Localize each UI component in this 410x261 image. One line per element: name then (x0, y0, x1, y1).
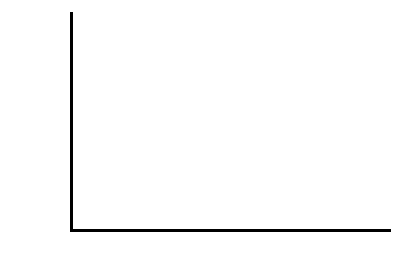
y-axis-label-container (0, 0, 34, 261)
y-axis-label (8, 9, 42, 249)
x-axis-spine (70, 229, 391, 232)
plot-area (73, 14, 390, 229)
data-layer (73, 14, 390, 229)
chart-figure (0, 0, 410, 261)
lower-limit-annotation (73, 14, 87, 90)
